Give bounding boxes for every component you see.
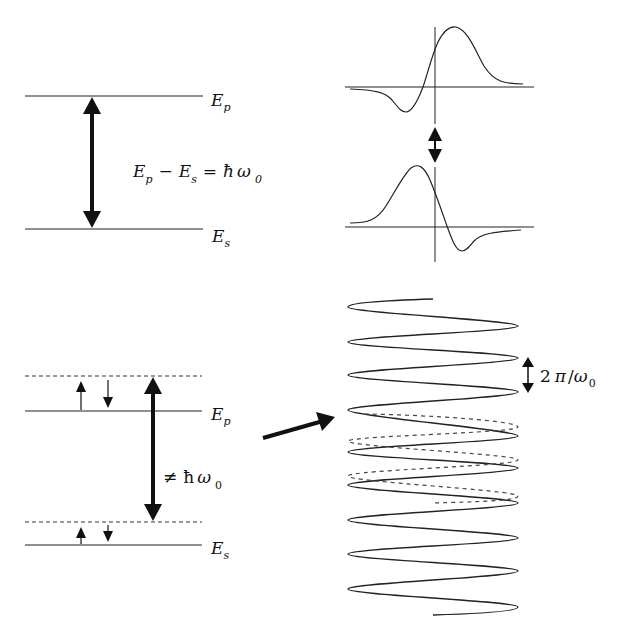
energy-equation: Ep−Es=ħω0 — [132, 161, 262, 186]
diagram-canvas: Ep Es Ep−Es=ħω0 — [0, 0, 621, 628]
top-right-wavefunctions — [345, 27, 534, 262]
period-label: 2π/ω0 — [540, 366, 596, 390]
bottom-left-energy-diagram: Ep Es ≠ħω0 — [25, 376, 230, 562]
up-arrow-icon — [76, 381, 86, 410]
bottom-right-oscillation: 2π/ω0 — [348, 299, 596, 615]
double-arrow-icon — [428, 127, 442, 163]
upper-wave-curve — [350, 27, 523, 112]
lower-level-label: Es — [210, 538, 229, 562]
pointer-arrow-icon — [263, 412, 335, 438]
transition-arrow-icon — [144, 377, 162, 521]
down-arrow-icon — [103, 380, 113, 408]
lower-level-label: Es — [211, 226, 230, 250]
upper-level-label: Ep — [210, 90, 230, 114]
period-arrow-icon — [522, 357, 534, 393]
not-equal-label: ≠ħω0 — [163, 467, 222, 492]
down-arrow-icon — [103, 525, 113, 542]
up-arrow-icon — [76, 527, 86, 544]
solid-wave — [348, 299, 518, 615]
top-left-energy-diagram: Ep Es Ep−Es=ħω0 — [25, 90, 262, 250]
upper-level-label: Ep — [210, 404, 230, 428]
transition-arrow-icon — [83, 97, 101, 228]
